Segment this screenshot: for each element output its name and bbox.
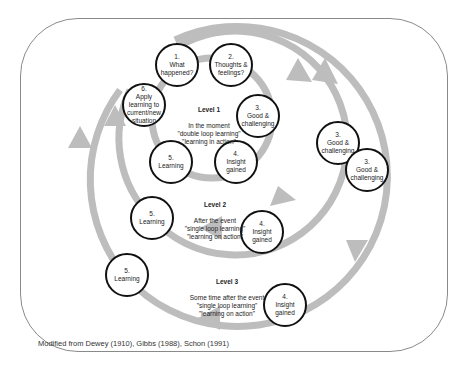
node-what-happened: 1. What happened? (155, 43, 199, 87)
level1-description: In the moment "double loop learning" "le… (177, 122, 240, 145)
node-apply-learning: 6. Apply learning to current/new situati… (122, 83, 166, 127)
arrow-head-icon (270, 186, 296, 206)
level3-description: Some time after the event "single loop l… (190, 294, 264, 317)
level2-description: After the event "single loop learning" "… (185, 217, 246, 240)
level1-label: Level 1 In the moment "double loop learn… (164, 98, 254, 146)
arrow-head-icon (68, 126, 92, 148)
node-learning-l1: 5. Learning (149, 140, 193, 184)
node-insight-l1: 4. Insight gained (214, 140, 258, 184)
level2-title: Level 2 (170, 201, 260, 209)
node-thoughts-feelings: 2. Thoughts & feelings? (209, 43, 253, 87)
source-caption: Modified from Dewey (1910), Gibbs (1988)… (38, 339, 229, 348)
level1-title: Level 1 (164, 106, 254, 114)
node-good-challenging-l3: 3. Good & challenging (345, 148, 389, 192)
level3-label: Level 3 Some time after the event "singl… (177, 270, 277, 318)
level3-title: Level 3 (177, 278, 277, 286)
level2-label: Level 2 After the event "single loop lea… (170, 193, 260, 241)
node-learning-l3: 5. Learning (105, 253, 149, 297)
node-learning-l2: 5. Learning (130, 196, 174, 240)
